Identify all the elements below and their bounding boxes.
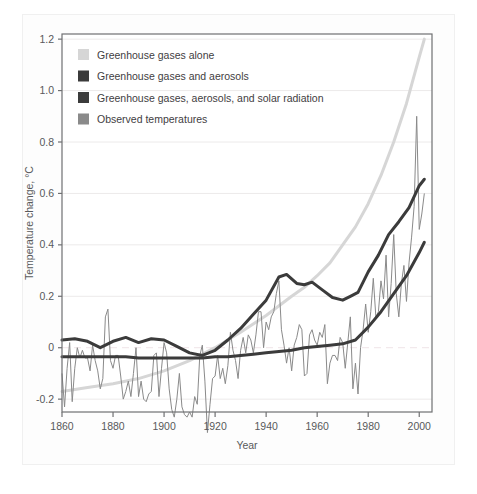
x-tick-label: 2000 <box>408 420 432 432</box>
legend-swatch <box>78 49 89 60</box>
x-axis: 18601880190019201940196019802000 <box>50 412 431 432</box>
x-tick-label: 1900 <box>152 420 176 432</box>
y-tick-label: 0.2 <box>39 290 54 302</box>
legend-swatch <box>78 71 89 82</box>
x-tick-label: 1920 <box>203 420 227 432</box>
legend-label: Greenhouse gases alone <box>97 49 214 61</box>
legend-label: Greenhouse gases, aerosols, and solar ra… <box>97 92 324 104</box>
legend-item[interactable]: Greenhouse gases alone <box>78 49 214 61</box>
x-axis-title: Year <box>236 439 258 451</box>
legend-item[interactable]: Greenhouse gases, aerosols, and solar ra… <box>78 92 324 104</box>
y-axis-title: Temperature change, °C <box>23 166 35 280</box>
legend-label: Greenhouse gases and aerosols <box>97 70 249 82</box>
legend-swatch <box>78 114 89 125</box>
x-tick-label: 1860 <box>50 420 74 432</box>
legend-swatch <box>78 92 89 103</box>
legend-item[interactable]: Greenhouse gases and aerosols <box>78 70 249 82</box>
y-tick-label: -0.2 <box>36 393 54 405</box>
y-tick-label: 1.2 <box>39 33 54 45</box>
y-tick-label: 0.4 <box>39 238 54 250</box>
x-tick-label: 1940 <box>254 420 278 432</box>
x-tick-label: 1960 <box>305 420 329 432</box>
climate-temperature-chart: -0.200.20.40.60.81.01.218601880190019201… <box>0 0 477 494</box>
legend-label: Observed temperatures <box>97 113 207 125</box>
y-tick-label: 1.0 <box>39 84 54 96</box>
y-tick-label: 0.6 <box>39 187 54 199</box>
y-axis: -0.200.20.40.60.81.01.2 <box>36 33 62 405</box>
x-tick-label: 1980 <box>357 420 381 432</box>
legend-item[interactable]: Observed temperatures <box>78 113 207 125</box>
y-tick-label: 0.8 <box>39 136 54 148</box>
chart-svg: -0.200.20.40.60.81.01.218601880190019201… <box>0 0 477 494</box>
y-tick-label: 0 <box>48 341 54 353</box>
x-tick-label: 1880 <box>101 420 125 432</box>
